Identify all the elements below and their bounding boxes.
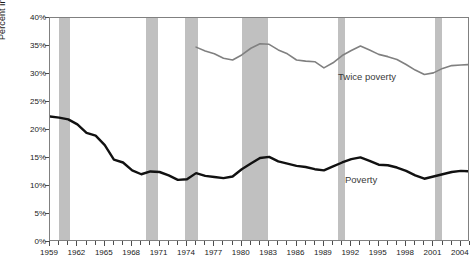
x-tick-mark-major [432,241,433,246]
x-tick-mark-minor [341,241,342,245]
x-tick-mark-major [76,241,77,246]
x-tick-mark-minor [140,241,141,245]
y-tick-label: 20% [30,125,46,134]
x-tick-mark-major [213,241,214,246]
x-tick-mark-minor [396,241,397,245]
x-tick-mark-minor [232,241,233,245]
x-tick-label: 1980 [232,248,250,257]
x-tick-label: 1986 [287,248,305,257]
poverty-twice-poverty-line-chart: Percent in poverty and twice poverty 0%5… [0,0,475,266]
x-tick-mark-minor [149,241,150,245]
y-tick-label: 25% [30,97,46,106]
x-tick-label: 1992 [341,248,359,257]
x-tick-mark-minor [286,241,287,245]
x-tick-mark-minor [387,241,388,245]
x-tick-mark-minor [250,241,251,245]
x-tick-mark-major [460,241,461,246]
series-line [50,117,468,180]
x-tick-mark-minor [414,241,415,245]
x-tick-mark-minor [168,241,169,245]
x-tick-label: 1977 [204,248,222,257]
x-tick-mark-minor [451,241,452,245]
x-axis-labels: 1959196219651968197119741977198019831986… [0,248,475,262]
x-tick-mark-minor [442,241,443,245]
x-tick-label: 1968 [122,248,140,257]
y-axis-title: Percent in poverty and twice poverty [0,0,7,40]
x-tick-label: 1989 [314,248,332,257]
x-tick-mark-minor [177,241,178,245]
x-tick-mark-minor [86,241,87,245]
series-layer [50,18,468,240]
x-tick-mark-minor [195,241,196,245]
x-tick-mark-major [186,241,187,246]
x-tick-mark-minor [222,241,223,245]
x-tick-label: 2001 [424,248,442,257]
y-axis: Percent in poverty and twice poverty 0%5… [0,0,46,266]
x-tick-mark-minor [95,241,96,245]
x-tick-mark-minor [122,241,123,245]
x-tick-mark-minor [332,241,333,245]
plot-inner [50,18,468,240]
x-tick-mark-major [405,241,406,246]
x-tick-mark-minor [314,241,315,245]
x-tick-mark-major [378,241,379,246]
x-axis-ticks [49,241,469,246]
x-tick-mark-major [350,241,351,246]
x-tick-mark-minor [423,241,424,245]
x-tick-label: 1974 [177,248,195,257]
x-tick-mark-minor [113,241,114,245]
x-tick-mark-major [241,241,242,246]
y-tick-label: 15% [30,153,46,162]
x-tick-mark-minor [369,241,370,245]
x-tick-mark-major [104,241,105,246]
x-tick-mark-minor [277,241,278,245]
x-tick-label: 1998 [396,248,414,257]
x-tick-mark-major [131,241,132,246]
x-tick-mark-minor [67,241,68,245]
x-tick-mark-minor [469,241,470,245]
x-tick-mark-major [296,241,297,246]
x-tick-mark-minor [259,241,260,245]
series-line [196,44,468,75]
x-tick-label: 1965 [95,248,113,257]
x-tick-mark-minor [305,241,306,245]
plot-area [49,17,469,241]
x-tick-mark-minor [58,241,59,245]
x-tick-mark-minor [359,241,360,245]
x-tick-label: 1995 [369,248,387,257]
x-tick-mark-major [49,241,50,246]
x-tick-label: 1959 [40,248,58,257]
x-tick-mark-major [268,241,269,246]
y-tick-label: 30% [30,69,46,78]
x-tick-label: 1971 [150,248,168,257]
poverty-series-label: Poverty [345,174,377,185]
x-tick-mark-major [159,241,160,246]
x-tick-mark-minor [204,241,205,245]
y-tick-label: 40% [30,13,46,22]
x-tick-label: 1962 [67,248,85,257]
twice-poverty-series-label: Twice poverty [338,71,396,82]
x-tick-label: 1983 [259,248,277,257]
x-tick-mark-major [323,241,324,246]
x-tick-label: 2004 [451,248,469,257]
y-tick-label: 10% [30,181,46,190]
y-tick-label: 35% [30,41,46,50]
